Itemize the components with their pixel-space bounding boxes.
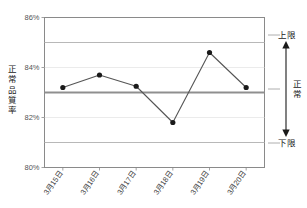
normal-range-label-char: 正 [293, 79, 302, 89]
y-axis-title-char: 正 [8, 64, 17, 74]
quality-rate-control-chart: 80%82%84%86% 3月15日3月16日3月17日3月18日3月19日3月… [0, 0, 307, 208]
y-tick-label: 84% [24, 63, 39, 72]
data-point [170, 120, 175, 125]
lower-limit-label: 下限 [278, 138, 296, 148]
chart-svg: 80%82%84%86% 3月15日3月16日3月17日3月18日3月19日3月… [0, 0, 307, 208]
y-axis-title-char: 常 [8, 74, 17, 84]
data-point [207, 50, 212, 55]
y-tick-label: 86% [24, 13, 39, 22]
y-tick-label: 82% [24, 113, 39, 122]
y-tick-label: 80% [24, 163, 39, 172]
y-axis-title-char: 質 [8, 95, 17, 105]
data-point [244, 85, 249, 90]
data-point [134, 84, 139, 89]
data-point [60, 85, 65, 90]
y-axis-title-char: 品 [8, 85, 17, 95]
normal-range-label-char: 常 [293, 89, 302, 99]
upper-limit-label: 上限 [278, 30, 296, 40]
normal-range-label: 正常 [293, 79, 302, 99]
data-point [97, 72, 102, 77]
y-axis-title: 正常品質率 [8, 64, 17, 116]
y-axis-title-char: 率 [8, 105, 17, 115]
